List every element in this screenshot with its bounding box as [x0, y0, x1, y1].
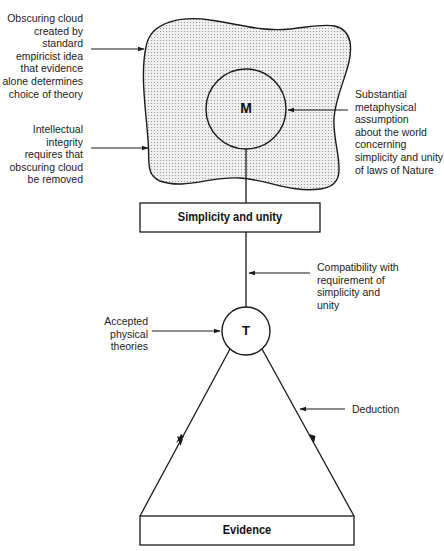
note-accepted-theories: Accepted physical theories [90, 315, 148, 353]
deduction-line-right [262, 349, 354, 516]
deduction-arrowhead-right-icon [309, 434, 316, 443]
theory-label: T [236, 323, 256, 338]
note-compatibility: Compatibility with requirement of simpli… [317, 261, 417, 311]
deduction-line-left [140, 349, 230, 516]
evidence-label: Evidence [149, 523, 346, 537]
note-intellectual-integrity: Intellectual integrity requires that obs… [0, 123, 83, 186]
note-metaphysical-assumption: Substantial metaphysical assumption abou… [355, 88, 444, 176]
note-deduction: Deduction [352, 403, 422, 416]
simplicity-label: Simplicity and unity [147, 210, 313, 224]
note-obscuring-cloud: Obscuring cloud created by standard empi… [0, 12, 83, 100]
metaphysics-label: M [236, 100, 256, 116]
